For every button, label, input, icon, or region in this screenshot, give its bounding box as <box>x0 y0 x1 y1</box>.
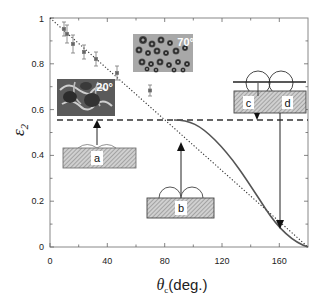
svg-text:θc(deg.): θc(deg.) <box>156 276 207 295</box>
panel-a-label: a <box>94 152 101 164</box>
y-axis-title: ε2 <box>9 123 30 136</box>
x-tick-labels: 0 40 80 120 160 <box>47 256 286 266</box>
x-axis-title: θc(deg.) <box>156 276 207 295</box>
inset-photo-20deg: 20° <box>57 79 115 116</box>
model-curve <box>174 120 308 247</box>
schematic-cd: c d <box>233 71 306 229</box>
y-tick-0.4: 0.4 <box>31 150 44 160</box>
schematic-a: a <box>63 120 136 168</box>
panel-d-label: d <box>284 97 290 109</box>
x-tick-40: 40 <box>102 256 112 266</box>
chart: 0 0.2 0.4 0.6 0.8 1 0 40 80 120 160 ε2 θ… <box>0 0 324 301</box>
data-point <box>94 52 98 66</box>
y-tick-0: 0 <box>39 242 44 252</box>
inset-photo-70deg: 70° <box>133 34 194 73</box>
inset-70-label: 70° <box>177 36 194 48</box>
x-tick-160: 160 <box>272 256 287 266</box>
y-axis-subscript: 2 <box>18 123 30 129</box>
y-tick-labels: 0 0.2 0.4 0.6 0.8 1 <box>31 14 44 252</box>
x-tick-120: 120 <box>214 256 229 266</box>
panel-b-label: b <box>178 202 184 214</box>
inset-20-label: 20° <box>96 81 113 93</box>
y-tick-0.8: 0.8 <box>31 59 44 69</box>
x-axis-unit: (deg.) <box>168 276 207 293</box>
y-tick-0.2: 0.2 <box>31 196 44 206</box>
y-tick-1: 1 <box>39 14 44 24</box>
x-axis-symbol: θ <box>156 276 164 293</box>
panel-c-label: c <box>246 97 252 109</box>
y-tick-0.6: 0.6 <box>31 105 44 115</box>
svg-text:ε2: ε2 <box>9 123 30 136</box>
data-point <box>115 66 119 80</box>
schematic-b: b <box>147 142 214 218</box>
data-point <box>148 85 152 96</box>
x-tick-80: 80 <box>160 256 170 266</box>
data-point <box>82 45 86 59</box>
x-tick-0: 0 <box>47 256 52 266</box>
